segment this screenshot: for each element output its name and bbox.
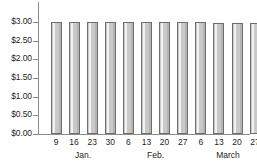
x-axis-line — [38, 134, 250, 135]
bar — [69, 22, 80, 134]
bar — [87, 22, 98, 134]
y-axis-tick-label: $1.00 — [0, 92, 32, 101]
y-axis-tick-label-text: $1.00 — [0, 92, 32, 101]
y-axis-tick-label-text: $1.50 — [0, 73, 32, 82]
y-axis-tick-label: $2.00 — [0, 54, 32, 63]
month-group-label: Feb. — [121, 150, 191, 160]
y-axis-tick-label: $1.50 — [0, 73, 32, 82]
bar — [177, 22, 188, 134]
y-axis-tick-label-text: $0.50 — [0, 110, 32, 119]
y-axis-tick-label-text: $2.50 — [0, 36, 32, 45]
bar — [250, 23, 257, 134]
y-axis-tick-label: $2.50 — [0, 36, 32, 45]
month-group-label: March — [193, 150, 257, 160]
y-axis-tick-label: $0.00 — [0, 129, 32, 138]
plot-area — [38, 2, 250, 134]
y-axis-tick-label-text: $0.00 — [0, 129, 32, 138]
bar — [123, 22, 134, 134]
y-axis-tick-label-text: $3.00 — [0, 17, 32, 26]
y-axis-tick-label: $0.50 — [0, 110, 32, 119]
bar — [195, 22, 206, 134]
x-axis-tick-label: 27 — [242, 137, 257, 147]
bar — [159, 22, 170, 134]
bar — [51, 22, 62, 134]
bar — [232, 23, 243, 134]
bar — [141, 22, 152, 134]
month-group-label: Jan. — [48, 150, 118, 160]
bar — [213, 23, 224, 134]
y-axis-tick-label: $3.00 — [0, 17, 32, 26]
y-axis-tick-label-text: $2.00 — [0, 54, 32, 63]
bar-chart: $0.00$0.50$1.00$1.50$2.00$2.50$3.00 9162… — [0, 0, 257, 165]
bar — [105, 22, 116, 134]
